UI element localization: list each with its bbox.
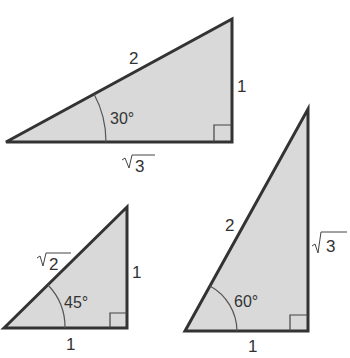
horizontal-leg-label-sqrt3: 3 [122, 155, 155, 176]
svg-text:3: 3 [135, 157, 144, 176]
triangles-diagram: 30° 2 1 3 45° 2 1 1 60° 2 3 1 [0, 0, 350, 358]
triangle-30: 30° 2 1 3 [6, 19, 246, 176]
vertical-leg-label: 1 [132, 263, 141, 282]
triangle-45: 45° 2 1 1 [4, 207, 141, 354]
svg-text:3: 3 [326, 237, 335, 256]
vertical-leg-label: 1 [237, 77, 246, 96]
horizontal-leg-label: 1 [66, 335, 75, 354]
triangle-60: 60° 2 3 1 [185, 109, 347, 356]
angle-label-60: 60° [234, 293, 258, 310]
horizontal-leg-label: 1 [248, 337, 257, 356]
angle-label-45: 45° [64, 294, 88, 311]
svg-text:2: 2 [49, 255, 58, 274]
vertical-leg-label-sqrt3: 3 [312, 232, 347, 256]
angle-label-30: 30° [110, 110, 134, 127]
hypotenuse-label: 2 [225, 216, 234, 235]
hypotenuse-label: 2 [129, 49, 138, 68]
